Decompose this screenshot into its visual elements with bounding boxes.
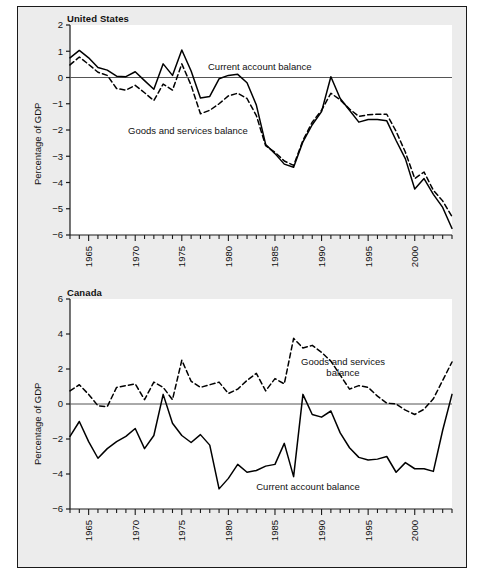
y-tick-label: −2 [52,124,63,135]
annotation-current-account-balance: Current account balance [208,61,312,72]
x-tick-label: 1965 [83,520,94,541]
y-tick-label: 6 [58,293,63,304]
us-plot-area: 210−1−2−3−4−5−61965197019751980198519901… [18,7,468,287]
y-tick-label: 2 [58,363,63,374]
annotation-goods-services-balance: Goods and services balance [128,125,248,136]
x-tick-label: 1970 [130,520,141,541]
x-tick-label: 1980 [223,246,234,267]
y-tick-label: 4 [58,328,63,339]
y-tick-label: 1 [58,46,63,57]
y-tick-label: −6 [52,229,63,240]
x-tick-label: 1970 [130,246,141,267]
x-tick-label: 2000 [409,520,420,541]
x-tick-label: 1975 [176,246,187,267]
x-tick-label: 1975 [176,520,187,541]
x-tick-label: 2000 [409,246,420,267]
x-tick-label: 1985 [269,520,280,541]
x-tick-label: 1985 [269,246,280,267]
y-tick-label: −4 [52,468,63,479]
figure-container: United States Percentage of GDP 210−1−2−… [17,6,467,568]
y-tick-label: 2 [58,19,63,30]
y-tick-label: −5 [52,203,63,214]
x-tick-label: 1995 [363,246,374,267]
annotation-current-account-balance: Current account balance [256,481,360,492]
x-tick-label: 1990 [316,246,327,267]
y-tick-label: −4 [52,177,63,188]
y-tick-label: −2 [52,433,63,444]
y-tick-label: −3 [52,151,63,162]
canada-plot-area: 6420−2−4−6196519701975198019851990199520… [18,287,468,569]
y-tick-label: −1 [52,98,63,109]
x-tick-label: 1965 [83,246,94,267]
x-tick-label: 1995 [363,520,374,541]
y-tick-label: 0 [58,72,63,83]
x-tick-label: 1980 [223,520,234,541]
y-tick-label: −6 [52,503,63,514]
x-tick-label: 1990 [316,520,327,541]
y-tick-label: 0 [58,398,63,409]
